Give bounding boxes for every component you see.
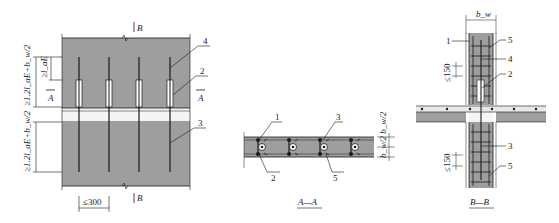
a-a-dim-right: b_w/2 b_w/2 bbox=[378, 111, 388, 158]
wall-reinforcement-diagram: B B A A ≥1.2l_aE+b_w/2 ≥l_aE ≥1.2l_aE+b_… bbox=[0, 0, 559, 223]
a-a-callout-1: 1 bbox=[275, 112, 280, 122]
callout-2: 2 bbox=[200, 66, 205, 76]
b-b-callout-3: 3 bbox=[508, 141, 513, 151]
section-marker-b-bottom: B bbox=[137, 193, 143, 203]
dim-lower-length: ≥1.2l_aE+b_w/2 bbox=[22, 110, 32, 172]
callout-4: 4 bbox=[203, 36, 208, 46]
b-b-dim-width: b_w bbox=[476, 9, 491, 19]
b-b-dim-upper-spacing: ≤150 bbox=[442, 63, 452, 82]
b-b-title: B—B bbox=[470, 197, 490, 207]
b-b-callout-2: 2 bbox=[508, 69, 513, 79]
a-a-callout-2: 2 bbox=[271, 173, 276, 183]
elevation-view: B B A A ≥1.2l_aE+b_w/2 ≥l_aE ≥1.2l_aE+b_… bbox=[22, 22, 210, 212]
b-b-callout-4: 4 bbox=[508, 54, 513, 64]
dim-lap-length: ≥l_aE bbox=[39, 56, 49, 78]
callout-3: 3 bbox=[198, 118, 203, 128]
dim-upper-length: ≥1.2l_aE+b_w/2 bbox=[22, 44, 32, 106]
b-b-callout-5-top: 5 bbox=[508, 35, 513, 45]
b-b-callout-1: 1 bbox=[446, 36, 451, 46]
a-a-callout-5: 5 bbox=[333, 173, 338, 183]
b-b-callout-5-bottom: 5 bbox=[508, 161, 513, 171]
a-a-callout-3: 3 bbox=[336, 112, 341, 122]
a-a-title: A—A bbox=[297, 197, 318, 207]
section-b-b: b_w bbox=[416, 9, 546, 208]
section-marker-a-left: A bbox=[47, 93, 54, 103]
section-marker-b-top: B bbox=[137, 23, 143, 33]
section-a-a: b_w/2 b_w/2 1 3 2 5 A—A bbox=[244, 111, 395, 208]
dim-spacing: ≤300 bbox=[83, 197, 102, 207]
b-b-dim-lower-spacing: ≤150 bbox=[442, 153, 452, 172]
section-marker-a-right: A bbox=[197, 93, 204, 103]
